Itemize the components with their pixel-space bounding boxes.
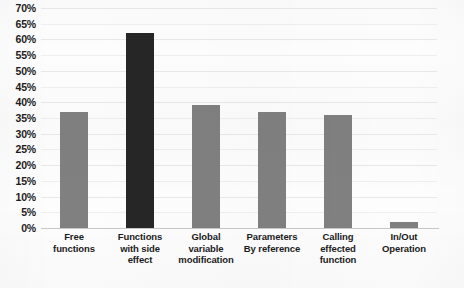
bar: [60, 112, 88, 228]
x-axis-category-label: Functionswith sideeffect: [102, 231, 178, 266]
x-axis-category-label-line: By reference: [234, 243, 310, 255]
x-axis-labels: FreefunctionsFunctionswith sideeffectGlo…: [41, 231, 437, 288]
y-axis-tick-label: 5%: [21, 206, 36, 218]
bar: [126, 33, 154, 228]
y-axis-tick-label: 40%: [16, 96, 36, 108]
y-axis-tick-label: 30%: [16, 128, 36, 140]
x-axis-category-label-line: function: [300, 254, 376, 266]
y-axis: 70%65%60%55%50%45%40%35%30%25%20%15%10%5…: [0, 0, 40, 232]
x-axis-category-label-line: Free: [36, 231, 112, 243]
x-axis-category-label-line: Calling: [300, 231, 376, 243]
bar: [258, 112, 286, 228]
category-axis-line: [41, 228, 439, 229]
y-axis-tick-label: 10%: [16, 191, 36, 203]
bar: [324, 115, 352, 228]
x-axis-category-label: Freefunctions: [36, 231, 112, 254]
x-axis-category-label-line: functions: [36, 243, 112, 255]
x-axis-category-label: Callingeffectedfunction: [300, 231, 376, 266]
x-axis-category-label-line: modification: [168, 254, 244, 266]
y-axis-tick-label: 15%: [16, 175, 36, 187]
bar: [192, 105, 220, 228]
x-axis-category-label-line: effected: [300, 243, 376, 255]
y-axis-tick-label: 20%: [16, 159, 36, 171]
x-axis-category-label-line: Global: [168, 231, 244, 243]
x-axis-category-label-line: Functions: [102, 231, 178, 243]
x-axis-category-label: ParametersBy reference: [234, 231, 310, 254]
bar-series: [41, 8, 437, 228]
x-axis-category-label: In/OutOperation: [366, 231, 442, 254]
y-axis-tick-label: 70%: [16, 2, 36, 14]
y-axis-tick-label: 65%: [16, 18, 36, 30]
x-axis-category-label-line: Parameters: [234, 231, 310, 243]
y-axis-tick-label: 50%: [16, 65, 36, 77]
y-axis-tick-label: 60%: [16, 33, 36, 45]
x-axis-category-label-line: Operation: [366, 243, 442, 255]
x-axis-category-label-line: effect: [102, 254, 178, 266]
y-axis-tick-label: 0%: [21, 222, 36, 234]
x-axis-category-label: Globalvariablemodification: [168, 231, 244, 266]
y-axis-tick-label: 25%: [16, 143, 36, 155]
y-axis-tick-label: 55%: [16, 49, 36, 61]
x-axis-category-label-line: variable: [168, 243, 244, 255]
bar-chart-screenshot: 70%65%60%55%50%45%40%35%30%25%20%15%10%5…: [0, 0, 464, 288]
x-axis-category-label-line: In/Out: [366, 231, 442, 243]
y-axis-tick-label: 35%: [16, 112, 36, 124]
y-axis-tick-label: 45%: [16, 81, 36, 93]
x-axis-category-label-line: with side: [102, 243, 178, 255]
